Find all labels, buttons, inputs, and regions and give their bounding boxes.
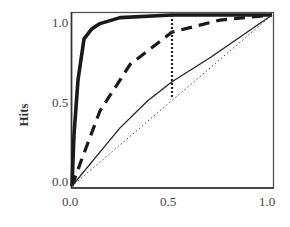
- roc-chart: 1.0 0.5 0.0 0.0 0.5 1.0 Hits: [0, 0, 290, 227]
- y-tick-0-5: 0.5: [52, 95, 68, 110]
- y-tick-1: 1.0: [52, 15, 68, 30]
- y-tick-0: 0.0: [52, 174, 68, 189]
- y-axis-label: Hits: [16, 103, 31, 126]
- x-tick-0-5: 0.5: [160, 194, 176, 209]
- x-tick-0: 0.0: [62, 194, 78, 209]
- series-layer: [72, 15, 272, 186]
- x-tick-1: 1.0: [259, 194, 275, 209]
